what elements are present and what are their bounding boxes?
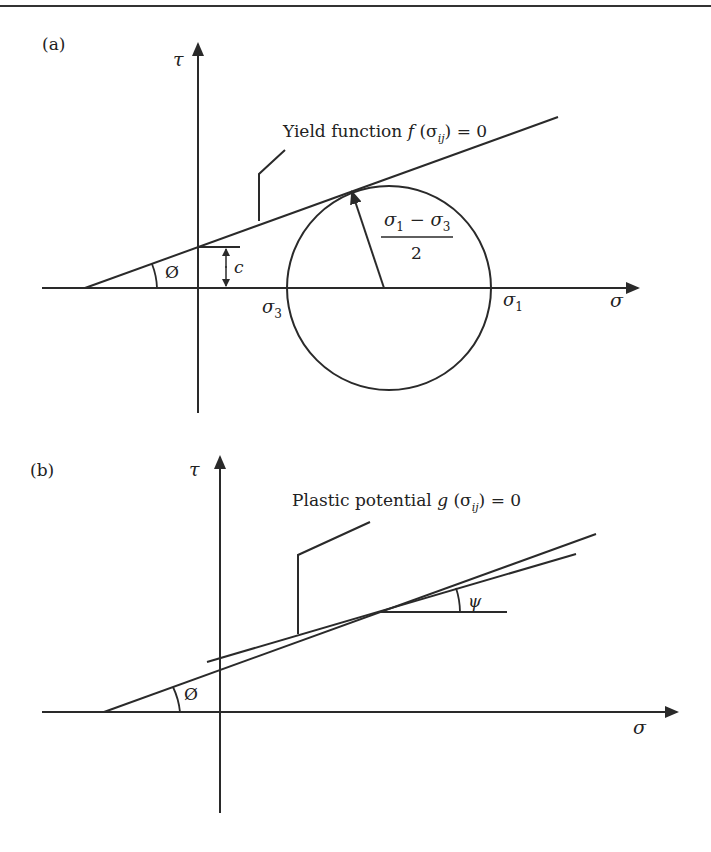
radius-arrow (352, 192, 384, 288)
radius-sigma1-sub: 1 (396, 220, 404, 234)
yield-envelope-b (104, 534, 596, 712)
yield-function-label: Yield function f (σij) = 0 (282, 121, 487, 145)
sigma3-sub: 3 (274, 307, 282, 321)
friction-angle-arc-b (173, 687, 180, 712)
sigma1-sub: 1 (515, 300, 523, 314)
dilation-angle-arc (456, 588, 460, 612)
sigma1-label: σ1 (503, 289, 523, 314)
potential-label-text: Plastic potential (292, 490, 437, 510)
radius-numerator: σ1 − σ3 (384, 209, 450, 234)
radius-sigma3-sub: 3 (443, 220, 451, 234)
yield-label-close: ) = 0 (445, 121, 488, 141)
potential-label-open: (σ (448, 490, 472, 510)
tau-label-a: τ (173, 48, 184, 70)
friction-angle-label-b: Ø (184, 684, 198, 704)
panel-a-label: (a) (42, 34, 65, 54)
yield-leader-line (259, 150, 285, 221)
tau-label-b: τ (189, 458, 200, 480)
panel-b-labels: (b) τ σ Plastic potential g (σij) = 0 Ø … (30, 458, 647, 738)
radius-sigma1: σ (384, 209, 397, 230)
radius-minus: − (404, 209, 431, 230)
friction-angle-arc-a (152, 264, 157, 288)
sigma-label-a: σ (610, 289, 624, 311)
potential-label-g: g (437, 490, 448, 510)
plastic-potential-label: Plastic potential g (σij) = 0 (292, 490, 521, 514)
dilation-angle-label: ψ (468, 591, 482, 611)
mohr-coulomb-diagram: (a) τ σ Yield function f (σij) = 0 Ø c σ… (0, 0, 711, 852)
radius-denominator: 2 (411, 243, 422, 263)
potential-label-close: ) = 0 (479, 490, 522, 510)
plastic-potential-line (207, 554, 576, 662)
sigma-label-b: σ (633, 716, 647, 738)
radius-sigma3: σ (430, 209, 443, 230)
panel-b-label: (b) (30, 460, 54, 480)
panel-a (42, 44, 638, 413)
friction-angle-label-a: Ø (165, 262, 179, 282)
cohesion-label: c (234, 257, 244, 277)
sigma3-symbol: σ (262, 296, 275, 317)
yield-label-text: Yield function (282, 121, 408, 141)
sigma1-symbol: σ (503, 289, 516, 310)
panel-b (42, 457, 677, 813)
panel-a-labels: (a) τ σ Yield function f (σij) = 0 Ø c σ… (42, 34, 624, 321)
yield-label-open: (σ (414, 121, 438, 141)
sigma3-label: σ3 (262, 296, 282, 321)
